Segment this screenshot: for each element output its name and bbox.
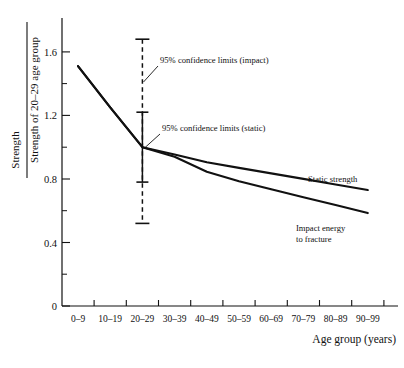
x-axis-title: Age group (years) — [312, 333, 396, 346]
x-tick-label-5: 50–59 — [227, 314, 251, 324]
x-tick-label-2: 20–29 — [131, 314, 155, 324]
y-tick-label-1.6: 1.6 — [44, 47, 57, 58]
series-label-impact-energy-line1: Impact energy — [296, 223, 346, 233]
annotation-impact-leader — [144, 66, 159, 82]
x-tick-label-4: 40–49 — [195, 314, 219, 324]
x-tick-label-0: 0–9 — [71, 314, 86, 324]
y-axis-ticks: 0 0.4 0.8 1.2 1.6 — [44, 47, 70, 312]
y-tick-label-0: 0 — [52, 301, 57, 312]
x-tick-label-7: 70–79 — [292, 314, 316, 324]
annotation-static-leader — [145, 134, 161, 148]
chart-figure: Strength Strength of 20–29 age group 0 0… — [0, 0, 404, 368]
annotation-static-text: 95% confidence limits (static) — [162, 123, 265, 133]
x-tick-label-1: 10–19 — [98, 314, 122, 324]
y-axis-label-numerator: Strength — [9, 131, 21, 169]
x-tick-label-9: 90–99 — [356, 314, 380, 324]
series-label-static-strength: Static strength — [308, 174, 358, 184]
y-axis-label-denominator: Strength of 20–29 age group — [28, 37, 40, 163]
strength-vs-age-chart: Strength Strength of 20–29 age group 0 0… — [0, 0, 404, 368]
annotation-static-confidence: 95% confidence limits (static) — [145, 123, 266, 148]
x-tick-label-3: 30–39 — [163, 314, 187, 324]
y-tick-label-0.4: 0.4 — [44, 238, 58, 249]
x-tick-label-8: 80–89 — [324, 314, 348, 324]
series-label-impact-energy-line2: to fracture — [296, 234, 332, 244]
y-axis-label: Strength Strength of 20–29 age group — [9, 22, 40, 178]
y-tick-label-0.8: 0.8 — [44, 174, 57, 185]
x-tick-label-6: 60–69 — [259, 314, 283, 324]
annotation-impact-text: 95% confidence limits (impact) — [160, 55, 269, 65]
series-impact-energy-line — [78, 66, 368, 213]
series-label-impact-energy-group: Impact energy to fracture — [296, 223, 346, 244]
annotation-impact-confidence: 95% confidence limits (impact) — [144, 55, 269, 82]
x-axis-ticks: 0–9 10–19 20–29 30–39 40–49 50–59 60–69 … — [71, 300, 384, 324]
y-tick-label-1.2: 1.2 — [44, 110, 57, 121]
